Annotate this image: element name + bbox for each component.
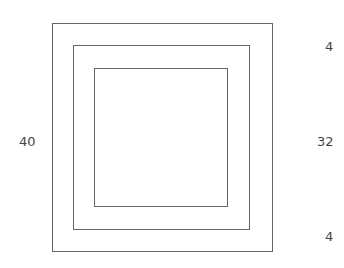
right-bottom-dimension-label: 4 (325, 230, 333, 244)
left-dimension-label: 40 (19, 135, 36, 149)
inner-square (94, 68, 228, 207)
right-top-dimension-label: 4 (325, 40, 333, 54)
right-middle-dimension-label: 32 (317, 135, 334, 149)
